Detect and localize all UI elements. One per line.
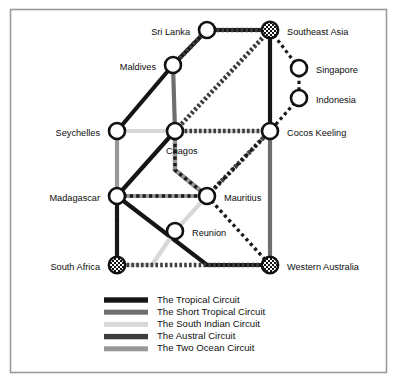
legend-austral-swatch (104, 334, 148, 339)
node-singapore[interactable] (291, 60, 307, 76)
legend-short-tropical-label: The Short Tropical Circuit (157, 306, 266, 317)
node-label-reunion: Reunion (192, 228, 226, 238)
node-mauritius[interactable] (199, 188, 215, 204)
network-map-svg: Sri LankaSoutheast AsiaMaldivesSingapore… (0, 0, 397, 387)
node-label-sri_lanka: Sri Lanka (151, 27, 191, 37)
legend-south-indian-swatch (104, 322, 148, 327)
node-indonesia[interactable] (291, 90, 307, 106)
node-label-cocos_keeling: Cocos Keeling (287, 128, 346, 138)
node-south_africa[interactable] (109, 257, 125, 273)
node-label-western_australia: Western Australia (287, 262, 360, 272)
legend-south-indian-label: The South Indian Circuit (157, 318, 260, 329)
node-label-seychelles: Seychelles (56, 128, 101, 138)
node-cocos_keeling[interactable] (262, 123, 278, 139)
legend-austral-label: The Austral Circuit (157, 330, 236, 341)
legend-short-tropical-swatch (104, 310, 148, 315)
node-label-maldives: Maldives (120, 62, 157, 72)
node-label-singapore: Singapore (316, 65, 358, 75)
legend-tropical-swatch (104, 297, 148, 302)
node-reunion[interactable] (167, 223, 183, 239)
node-western_australia[interactable] (262, 257, 278, 273)
node-madagascar[interactable] (109, 188, 125, 204)
route-short_tropical_a[interactable] (173, 65, 175, 131)
node-chagos[interactable] (167, 123, 183, 139)
node-label-indonesia: Indonesia (316, 95, 357, 105)
legend-two-ocean-swatch (104, 346, 148, 351)
route-network-diagram: Sri LankaSoutheast AsiaMaldivesSingapore… (0, 0, 397, 387)
legend-tropical-label: The Tropical Circuit (157, 294, 240, 305)
node-sri_lanka[interactable] (199, 22, 215, 38)
legend-two-ocean-label: The Two Ocean Circuit (157, 342, 255, 353)
node-seychelles[interactable] (109, 123, 125, 139)
node-label-madagascar: Madagascar (49, 193, 100, 203)
node-southeast_asia[interactable] (262, 22, 278, 38)
node-label-south_africa: South Africa (50, 262, 100, 272)
node-label-chagos: Chagos (166, 146, 198, 156)
node-label-southeast_asia: Southeast Asia (287, 27, 349, 37)
node-maldives[interactable] (165, 57, 181, 73)
node-label-mauritius: Mauritius (224, 193, 262, 203)
